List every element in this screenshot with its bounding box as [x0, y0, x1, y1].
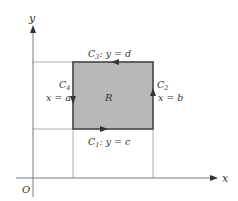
- region-diagram: x y O R C3: y = d C1: y = c C4 x = a C2 …: [0, 0, 238, 201]
- c4-equation: x = a: [46, 92, 71, 103]
- c4-label: C4: [59, 79, 70, 92]
- x-axis-arrow-icon: [210, 175, 218, 181]
- c2-equation: x = b: [158, 92, 183, 103]
- origin-label: O: [22, 184, 30, 195]
- diagram-canvas: x y O R C3: y = d C1: y = c C4 x = a C2 …: [0, 0, 238, 201]
- x-axis-label: x: [222, 172, 229, 185]
- c2-label: C2: [157, 79, 168, 92]
- region-label: R: [104, 92, 113, 103]
- c1-label: C1: y = c: [88, 136, 131, 149]
- region-r: [73, 62, 153, 129]
- c3-label: C3: y = d: [88, 48, 131, 61]
- y-axis-label: y: [28, 12, 36, 25]
- y-axis-arrow-icon: [30, 25, 36, 33]
